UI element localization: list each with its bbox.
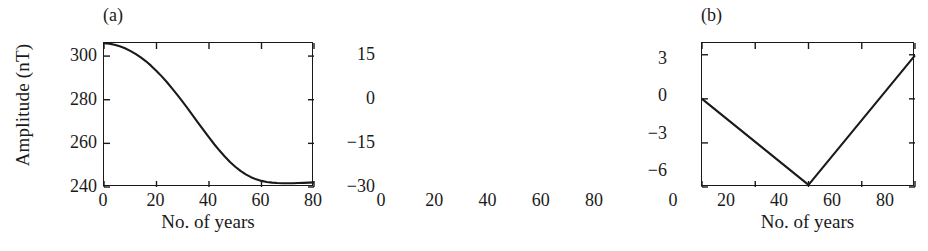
y-tick-label: 15 (319, 43, 375, 64)
x-tick-label: 80 (585, 190, 603, 211)
panel-a-plot-frame (103, 42, 313, 186)
x-tick-label: 40 (770, 190, 788, 211)
x-tick-label: 20 (425, 190, 443, 211)
y-tick-label: −6 (611, 159, 667, 180)
x-tick-label: 0 (669, 190, 678, 211)
y-tick-label: −30 (319, 176, 375, 197)
x-tick-label: 40 (479, 190, 497, 211)
y-tick-label: −3 (611, 122, 667, 143)
x-tick-label: 0 (99, 190, 108, 211)
x-tick-label: 80 (876, 190, 894, 211)
data-series-line (104, 43, 314, 183)
panel-a: (a) No. of years (0, 0, 320, 251)
panel-a-canvas (104, 43, 314, 187)
y-tick-label: −15 (319, 131, 375, 152)
figure-three-panel-amplitude: Amplitude (nT) (a) No. of years (b) No. … (0, 0, 928, 251)
x-tick-label: 60 (252, 190, 270, 211)
x-tick-label: 20 (147, 190, 165, 211)
y-tick-label: 240 (41, 176, 97, 197)
x-tick-label: 0 (377, 190, 386, 211)
panel-a-x-axis-label: No. of years (103, 211, 313, 233)
y-tick-label: 0 (319, 87, 375, 108)
x-tick-label: 40 (199, 190, 217, 211)
y-tick-label: 300 (41, 45, 97, 66)
panel-a-label: (a) (103, 5, 123, 26)
y-tick-label: 280 (41, 88, 97, 109)
x-tick-label: 60 (823, 190, 841, 211)
panel-b: (b) No. of years (320, 0, 620, 251)
x-tick-label: 20 (717, 190, 735, 211)
x-tick-label: 60 (532, 190, 550, 211)
y-tick-label: 3 (611, 48, 667, 69)
y-tick-label: 0 (611, 85, 667, 106)
y-tick-label: 260 (41, 132, 97, 153)
